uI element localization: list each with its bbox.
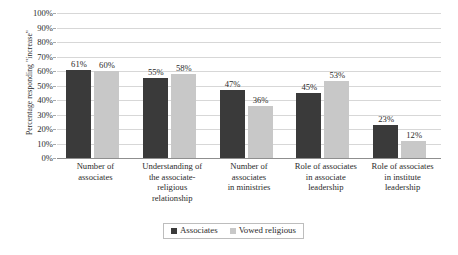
y-tick-mark bbox=[53, 115, 56, 116]
legend-item[interactable]: Vowed religious bbox=[230, 226, 296, 235]
y-tick-mark bbox=[53, 144, 56, 145]
y-tick-mark bbox=[53, 28, 56, 29]
y-tick-label: 30% bbox=[3, 111, 53, 120]
bar-value-label: 12% bbox=[394, 131, 434, 140]
legend-swatch-icon bbox=[171, 228, 177, 234]
y-tick-label: 100% bbox=[3, 9, 53, 18]
legend-label: Vowed religious bbox=[239, 226, 296, 235]
legend-label: Associates bbox=[180, 226, 218, 235]
bar-group: 47%36% bbox=[211, 13, 288, 158]
y-tick-label: 0% bbox=[3, 154, 53, 163]
bar[interactable] bbox=[94, 71, 119, 158]
bar[interactable] bbox=[248, 106, 273, 158]
y-tick-label: 50% bbox=[3, 82, 53, 91]
bar-value-label: 60% bbox=[87, 61, 127, 70]
y-tick-label: 40% bbox=[3, 96, 53, 105]
bar[interactable] bbox=[296, 93, 321, 158]
x-axis-label: Number ofassociates bbox=[57, 161, 134, 182]
y-tick-mark bbox=[53, 57, 56, 58]
x-axis-label: Role of associatesin instituteleadership bbox=[364, 161, 441, 193]
y-tick-label: 60% bbox=[3, 67, 53, 76]
plot-area: 61%60%55%58%47%36%45%53%23%12% bbox=[57, 13, 441, 158]
bar-group: 55%58% bbox=[134, 13, 211, 158]
x-axis-line bbox=[57, 158, 441, 159]
x-axis-label: Number ofassociatesin ministries bbox=[211, 161, 288, 193]
bar[interactable] bbox=[66, 70, 91, 158]
bar-value-label: 47% bbox=[213, 80, 253, 89]
bar[interactable] bbox=[171, 74, 196, 158]
y-tick-label: 80% bbox=[3, 38, 53, 47]
bar-value-label: 58% bbox=[164, 64, 204, 73]
y-tick-mark bbox=[53, 129, 56, 130]
bar-value-label: 45% bbox=[289, 83, 329, 92]
chart-legend: AssociatesVowed religious bbox=[163, 223, 304, 239]
y-tick-mark bbox=[53, 42, 56, 43]
bar-group: 61%60% bbox=[57, 13, 134, 158]
bar-group: 45%53% bbox=[287, 13, 364, 158]
legend-swatch-icon bbox=[230, 228, 236, 234]
y-axis-ticks: 100%90%80%70%60%50%40%30%20%10%0% bbox=[0, 13, 53, 158]
y-tick-mark bbox=[53, 71, 56, 72]
bar[interactable] bbox=[324, 81, 349, 158]
x-axis-label: Understanding ofthe associate-religiousr… bbox=[134, 161, 211, 203]
bar-value-label: 53% bbox=[317, 71, 357, 80]
y-tick-mark bbox=[53, 13, 56, 14]
y-tick-label: 10% bbox=[3, 140, 53, 149]
y-tick-mark bbox=[53, 86, 56, 87]
bar[interactable] bbox=[401, 141, 426, 158]
y-tick-mark bbox=[53, 100, 56, 101]
bar[interactable] bbox=[143, 78, 168, 158]
x-axis-label: Role of associatesin associateleadership bbox=[287, 161, 364, 193]
y-tick-label: 20% bbox=[3, 125, 53, 134]
bar-chart: Percentage responding "increase" 100%90%… bbox=[0, 0, 458, 255]
bar-value-label: 23% bbox=[366, 115, 406, 124]
y-tick-label: 70% bbox=[3, 53, 53, 62]
y-tick-label: 90% bbox=[3, 24, 53, 33]
bar-value-label: 36% bbox=[241, 96, 281, 105]
bar-group: 23%12% bbox=[364, 13, 441, 158]
x-axis-category-labels: Number ofassociatesUnderstanding ofthe a… bbox=[57, 161, 441, 217]
y-tick-mark bbox=[53, 158, 56, 159]
legend-item[interactable]: Associates bbox=[171, 226, 218, 235]
